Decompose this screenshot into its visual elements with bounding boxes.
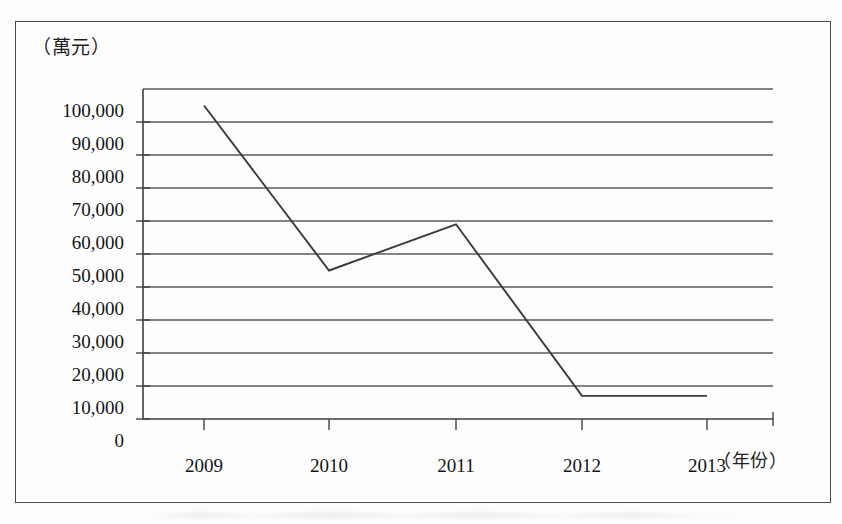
line-chart-svg: [16, 22, 832, 504]
page-background: （萬元） 100,000 90,000 80,000 70,000 60,000…: [0, 0, 842, 524]
x-axis: [143, 412, 773, 430]
scan-artifact-footer: [150, 512, 750, 519]
y-axis: [136, 89, 150, 419]
gridlines: [143, 89, 773, 386]
chart-frame: （萬元） 100,000 90,000 80,000 70,000 60,000…: [15, 21, 831, 503]
chart-plot-area: （萬元） 100,000 90,000 80,000 70,000 60,000…: [16, 22, 832, 504]
